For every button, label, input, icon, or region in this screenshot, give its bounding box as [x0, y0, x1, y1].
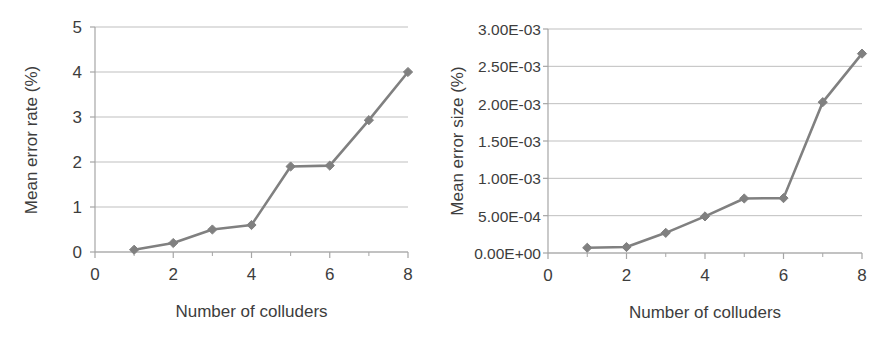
x-tick-labels-right: 02468 [543, 266, 866, 285]
y-tick-label: 5 [73, 18, 82, 37]
data-point-marker [740, 194, 749, 203]
axes-left [95, 27, 408, 252]
data-point-marker [583, 243, 592, 252]
figure-two-line-charts: 012345 02468 Mean error rate (%) Number … [0, 0, 890, 346]
x-tick-label: 2 [622, 266, 631, 285]
x-axis-title-left: Number of colluders [175, 302, 327, 321]
y-tick-label: 1.50E-03 [478, 133, 541, 150]
y-tick-label: 1.00E-03 [478, 170, 541, 187]
y-tick-label: 2.50E-03 [478, 58, 541, 75]
x-tick-label: 2 [169, 265, 178, 284]
data-markers-left [130, 67, 413, 254]
y-tick-labels-right: 0.00E+005.00E-041.00E-031.50E-032.00E-03… [474, 21, 541, 262]
data-point-marker [169, 238, 178, 247]
x-axis-title-right: Number of colluders [629, 303, 781, 322]
data-point-marker [208, 225, 217, 234]
y-tick-label: 0.00E+00 [474, 245, 541, 262]
y-tick-label: 3.00E-03 [478, 21, 541, 38]
gridlines-left [95, 27, 408, 252]
data-point-marker [622, 242, 631, 251]
x-tick-label: 4 [700, 266, 709, 285]
mean-error-rate-chart: 012345 02468 Mean error rate (%) Number … [0, 0, 445, 346]
data-point-marker [661, 228, 670, 237]
x-tick-label: 8 [857, 266, 866, 285]
data-markers-right [583, 49, 867, 252]
x-tick-label: 4 [247, 265, 256, 284]
data-line-left [134, 72, 408, 250]
series-polyline [587, 54, 862, 248]
x-tick-labels-left: 02468 [90, 265, 412, 284]
y-axis-title-right: Mean error size (%) [448, 66, 467, 215]
x-tick-label: 8 [403, 265, 412, 284]
y-tick-label: 5.00E-04 [478, 208, 541, 225]
tick-marks-right [543, 29, 862, 259]
y-tick-label: 4 [73, 63, 82, 82]
y-tick-labels-left: 012345 [73, 18, 82, 262]
data-point-marker [130, 245, 139, 254]
chart-panel-right: 0.00E+005.00E-041.00E-031.50E-032.00E-03… [445, 0, 890, 346]
x-tick-label: 6 [779, 266, 788, 285]
x-tick-label: 0 [543, 266, 552, 285]
y-tick-label: 2.00E-03 [478, 96, 541, 113]
x-tick-label: 6 [325, 265, 334, 284]
x-tick-label: 0 [90, 265, 99, 284]
y-axis-title-left: Mean error rate (%) [22, 66, 41, 214]
data-point-marker [779, 194, 788, 203]
y-tick-label: 3 [73, 108, 82, 127]
chart-panel-left: 012345 02468 Mean error rate (%) Number … [0, 0, 445, 346]
mean-error-size-chart: 0.00E+005.00E-041.00E-031.50E-032.00E-03… [445, 0, 890, 346]
y-tick-label: 2 [73, 153, 82, 172]
series-polyline [134, 72, 408, 250]
y-tick-label: 1 [73, 198, 82, 217]
data-point-marker [700, 212, 709, 221]
data-line-right [587, 54, 862, 248]
y-tick-label: 0 [73, 243, 82, 262]
